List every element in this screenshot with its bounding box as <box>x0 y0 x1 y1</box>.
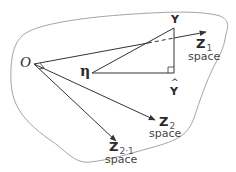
y-label: Y <box>171 14 179 25</box>
z1-vector <box>34 43 148 64</box>
z2-vector <box>34 64 155 120</box>
z21-label: Z2·1 <box>109 140 134 153</box>
origin-right-angle <box>39 63 44 69</box>
z2-caption: space <box>149 128 181 139</box>
z1-caption: space <box>188 51 220 62</box>
eta-to-y-line <box>92 28 174 73</box>
z21-symbol: Z <box>109 139 118 154</box>
yhat-right-angle <box>168 67 174 73</box>
z1-symbol: Z <box>196 36 205 51</box>
z21-vector <box>34 64 116 141</box>
hat-accent: ^ <box>171 78 179 87</box>
eta-label: η <box>80 64 90 78</box>
z1-label: Z1 <box>196 37 212 50</box>
yhat-label: ^ Y <box>170 86 178 97</box>
z21-caption: space <box>105 154 137 165</box>
origin-label: O <box>20 55 31 70</box>
